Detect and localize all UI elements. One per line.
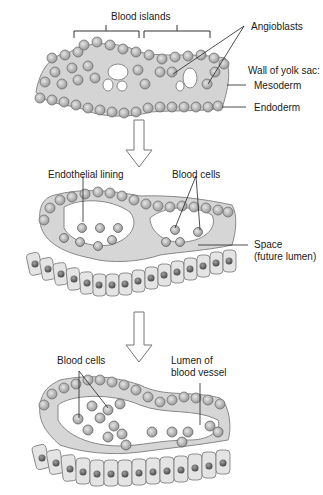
label-mesoderm: Mesoderm bbox=[254, 80, 301, 92]
blood-island-bracket-left bbox=[74, 25, 139, 38]
label-angioblasts: Angioblasts bbox=[251, 21, 303, 33]
label-wall-of-yolk-sac: Wall of yolk sac: bbox=[248, 65, 320, 77]
stage-1-tissue bbox=[35, 25, 246, 118]
label-blood-cells-stage-3: Blood cells bbox=[57, 355, 105, 367]
label-endothelial-lining: Endothelial lining bbox=[48, 169, 124, 181]
label-blood-cells-stage-2: Blood cells bbox=[172, 169, 220, 181]
label-space: Space bbox=[254, 239, 282, 251]
label-blood-islands: Blood islands bbox=[111, 11, 170, 23]
blood-island-bracket-right bbox=[144, 25, 210, 38]
down-arrow-1 bbox=[126, 120, 152, 167]
label-endoderm: Endoderm bbox=[254, 102, 300, 114]
label-future-lumen: (future lumen) bbox=[254, 251, 316, 263]
stage-3-tissue bbox=[31, 371, 230, 486]
label-lumen-of: Lumen of bbox=[171, 355, 213, 367]
label-blood-vessel: blood vessel bbox=[171, 367, 227, 379]
stage-2-tissue bbox=[26, 176, 248, 296]
down-arrow-2 bbox=[126, 312, 152, 362]
